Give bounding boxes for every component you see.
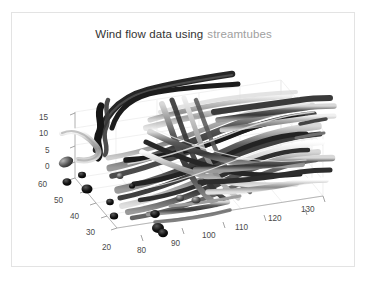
- streamtube-3d-plot: [0, 0, 367, 285]
- figure-canvas: Wind flow data usingstreamtubes 15105060…: [0, 0, 367, 285]
- plot-area: [0, 0, 367, 285]
